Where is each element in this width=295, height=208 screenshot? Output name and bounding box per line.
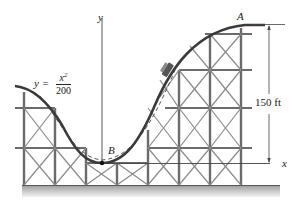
point-b-label: B (108, 145, 115, 156)
dimension-150ft (250, 25, 285, 164)
height-dimension-label: 150 ft (255, 97, 281, 108)
ground (22, 185, 280, 197)
roller-coaster-diagram: y A B x 150 ft y = x2 200 (0, 0, 295, 208)
diagram-graphics (0, 0, 295, 208)
equation-denominator: 200 (56, 85, 71, 96)
x-axis-label: x (282, 158, 287, 169)
y-axis-label: y (98, 12, 103, 23)
point-b-marker (100, 161, 104, 165)
point-a-label: A (237, 11, 244, 22)
equation-lhs: y = (34, 78, 49, 89)
equation-exponent: 2 (64, 71, 68, 79)
track (15, 25, 265, 163)
